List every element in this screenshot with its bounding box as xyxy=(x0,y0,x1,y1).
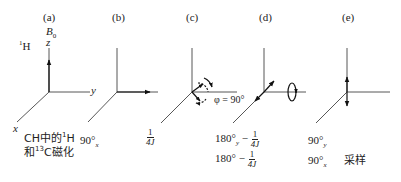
panel-label-a: (a) xyxy=(43,12,55,23)
magnetization-vector-b xyxy=(192,92,200,101)
pulse-angle: 180° xyxy=(215,132,236,144)
pulse-angle: 90° xyxy=(308,134,323,146)
panel-d-axes xyxy=(233,48,306,123)
panel-label-e: (e) xyxy=(342,12,354,23)
panel-c-axes xyxy=(161,48,237,123)
z-axis-label: z xyxy=(46,37,50,48)
y-axis-label: y xyxy=(91,85,96,96)
pulse-angle: 180° xyxy=(215,152,236,164)
caption-text: C磁化 xyxy=(44,146,74,159)
fraction-denominator: 4J xyxy=(146,138,155,147)
x-axis xyxy=(316,92,347,123)
delay-fraction: 14J xyxy=(146,128,155,147)
x-axis xyxy=(17,92,49,122)
field-subscript: 0 xyxy=(53,32,57,40)
caption-text: CH中的 xyxy=(24,132,62,145)
x-axis xyxy=(88,92,117,122)
separator: − xyxy=(236,152,248,164)
delay-fraction: 14J xyxy=(251,130,260,149)
rotation-arc-lower xyxy=(196,99,206,103)
pulse-label-e-2: 90°x xyxy=(308,155,327,169)
panel-b-axes xyxy=(88,48,158,122)
nucleus-label: 1H xyxy=(19,40,30,52)
pulse-label-b: 90°x xyxy=(80,135,99,149)
caption-line-2: 和13C磁化 xyxy=(24,146,74,158)
magnetization-vector-a xyxy=(192,84,203,92)
pulse-angle: 90° xyxy=(308,154,323,166)
fraction-denominator: 4J xyxy=(248,160,257,169)
rotation-arc-upper xyxy=(198,83,208,92)
fraction-denominator: 4J xyxy=(251,140,260,149)
pulse-label-d-1: 180°y − 14J xyxy=(215,130,259,149)
panel-e-axes xyxy=(316,48,390,123)
caption-sup: 13 xyxy=(35,145,44,153)
caption-text: H xyxy=(66,132,74,145)
caption-text: 和 xyxy=(24,146,35,159)
magnetization-vector-b xyxy=(255,92,264,101)
caption-line-1: CH中的1H xyxy=(24,132,75,144)
panel-label-c: (c) xyxy=(186,12,198,23)
pulse-label-e-1: 90°y xyxy=(308,135,327,149)
panel-label-b: (b) xyxy=(112,12,125,23)
pulse-axis: x xyxy=(323,161,326,169)
acquire-label: 采样 xyxy=(344,155,366,166)
pulse-angle: 90° xyxy=(80,134,95,146)
delay-fraction: 14J xyxy=(248,150,257,169)
x-axis-label: x xyxy=(13,123,18,134)
pulse-label-d-2: 180° − 14J xyxy=(215,150,256,169)
phase-label: φ = 90° xyxy=(214,95,244,105)
separator: − xyxy=(239,132,251,144)
pulse-axis: x xyxy=(95,141,98,149)
nucleus-symbol: H xyxy=(23,40,31,52)
magnetization-vector-a xyxy=(264,81,274,92)
delay-label-c: 14J xyxy=(146,128,155,147)
panel-a-axes xyxy=(17,48,90,122)
panel-label-d: (d) xyxy=(259,12,272,23)
pulse-axis: y xyxy=(323,141,326,149)
x-axis xyxy=(161,92,192,123)
